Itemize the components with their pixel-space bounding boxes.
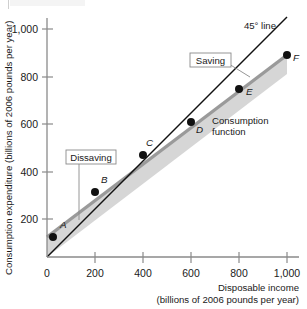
- x-tick-label-400: 400: [134, 267, 152, 279]
- x-axis-title-line1: Disposable income: [218, 282, 299, 293]
- x-axis-title-line2: (billions of 2006 pounds per year): [157, 294, 299, 305]
- saving-label: Saving: [196, 55, 225, 66]
- consumption-function-label-line2: function: [212, 126, 246, 137]
- consumption-function-line: [47, 55, 287, 237]
- data-point-label-b: B: [101, 174, 108, 185]
- x-tick-label-600: 600: [182, 267, 200, 279]
- y-tick-label-600: 600: [20, 118, 38, 130]
- y-axis-title: Consumption expenditure (billions of 200…: [3, 21, 14, 275]
- x-tick-label-800: 800: [230, 267, 248, 279]
- y-tick-label-400: 400: [20, 166, 38, 178]
- x-tick-label-1000: 1,000: [274, 267, 300, 279]
- consumption-function-figure: 1,000 800 600 400 200 0 200 400 600 800 …: [0, 0, 307, 309]
- y-tick-label-200: 200: [20, 213, 38, 225]
- x-tick-label-0: 0: [44, 267, 50, 279]
- data-point-b: [91, 188, 99, 196]
- saving-leader-line: [229, 64, 250, 77]
- data-point-label-e: E: [246, 86, 253, 97]
- data-point-label-d: D: [196, 124, 203, 135]
- data-point-label-c: C: [146, 137, 154, 148]
- forty-five-degree-line: [47, 17, 287, 257]
- forty-five-degree-line-label: 45° line: [244, 20, 276, 31]
- x-tick-label-200: 200: [86, 267, 104, 279]
- data-point-d: [187, 118, 195, 126]
- data-point-c: [139, 151, 147, 159]
- y-tick-label-800: 800: [20, 71, 38, 83]
- dissaving-label: Dissaving: [70, 152, 112, 163]
- data-point-a: [49, 233, 57, 241]
- data-point-label-a: A: [59, 219, 67, 230]
- data-point-label-f: F: [293, 52, 300, 63]
- data-point-e: [235, 85, 243, 93]
- data-point-f: [283, 51, 291, 59]
- chart-canvas: 1,000 800 600 400 200 0 200 400 600 800 …: [0, 0, 307, 309]
- y-tick-label-1000: 1,000: [12, 23, 38, 35]
- consumption-function-label-line1: Consumption: [212, 115, 269, 126]
